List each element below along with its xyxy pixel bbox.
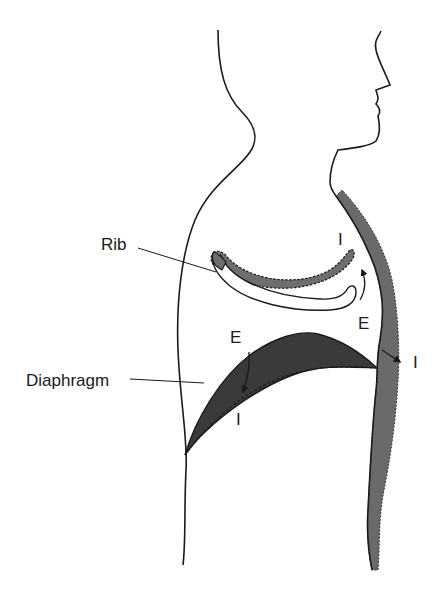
rib-inspiration-label: I <box>338 230 343 249</box>
diaphragm-expiration-label: E <box>230 328 241 347</box>
diaphragm-leader-line <box>130 379 204 383</box>
diaphragm-label: Diaphragm <box>26 371 109 390</box>
chest-wall-inspiration-label: I <box>413 353 418 372</box>
diaphragm-shade <box>185 333 377 455</box>
rib-motion-arrow <box>360 270 365 300</box>
face-profile <box>330 31 390 196</box>
rib-leader-line <box>138 248 216 272</box>
rib-expiration-label: E <box>358 314 369 333</box>
breathing-mechanics-diagram: Rib Diaphragm I E E I I <box>0 0 447 597</box>
rib-label: Rib <box>101 235 127 254</box>
back-outline <box>178 30 255 565</box>
diaphragm-inspiration-label: I <box>236 410 241 429</box>
